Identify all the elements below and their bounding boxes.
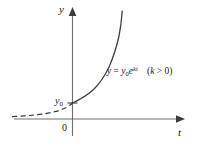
exponential-curve-dashed-tail xyxy=(12,103,73,117)
equation-condition: (k > 0) xyxy=(147,66,172,76)
t-axis-label: t xyxy=(178,127,181,138)
y-axis-arrowhead xyxy=(69,7,77,16)
equation-exponent: kt xyxy=(133,65,138,72)
t-axis-arrowhead xyxy=(176,115,185,123)
equation-equals-sign: = xyxy=(114,66,119,76)
exponential-curve-solid xyxy=(73,11,123,103)
condition-close-paren: ) xyxy=(169,66,172,76)
condition-relation: > 0 xyxy=(154,66,169,76)
y0-intercept-label: y0 xyxy=(55,96,63,108)
y0-intercept-subscript: 0 xyxy=(59,100,63,108)
exponential-growth-figure: y t 0 y0 y = y0ekt (k > 0) xyxy=(0,0,199,155)
equation-lhs: y xyxy=(107,66,111,76)
curve-equation-label: y = y0ekt (k > 0) xyxy=(107,66,173,77)
figure-canvas xyxy=(0,0,199,155)
y-axis-label: y xyxy=(59,4,64,15)
origin-label: 0 xyxy=(62,123,67,133)
